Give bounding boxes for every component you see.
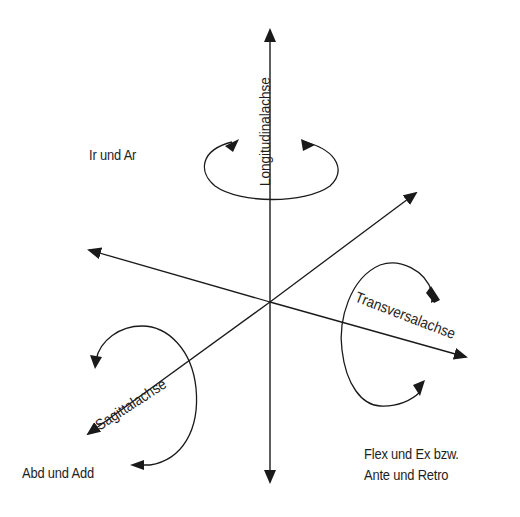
- internal-external-rotation-label: Ir und Ar: [89, 145, 136, 164]
- flexion-extension-label-line1: Flex und Ex bzw.: [364, 444, 459, 463]
- flexion-extension-label-line2: Ante und Retro: [364, 465, 448, 484]
- longitudinal-axis-label: Longitudinalachse: [256, 77, 273, 186]
- abduction-adduction-label: Abd und Add: [22, 463, 94, 482]
- body-axes-diagram: Longitudinalachse Transversalachse Sagit…: [0, 0, 520, 517]
- rotation-arrow-transversal: [341, 263, 440, 406]
- transversal-axis: [89, 250, 466, 357]
